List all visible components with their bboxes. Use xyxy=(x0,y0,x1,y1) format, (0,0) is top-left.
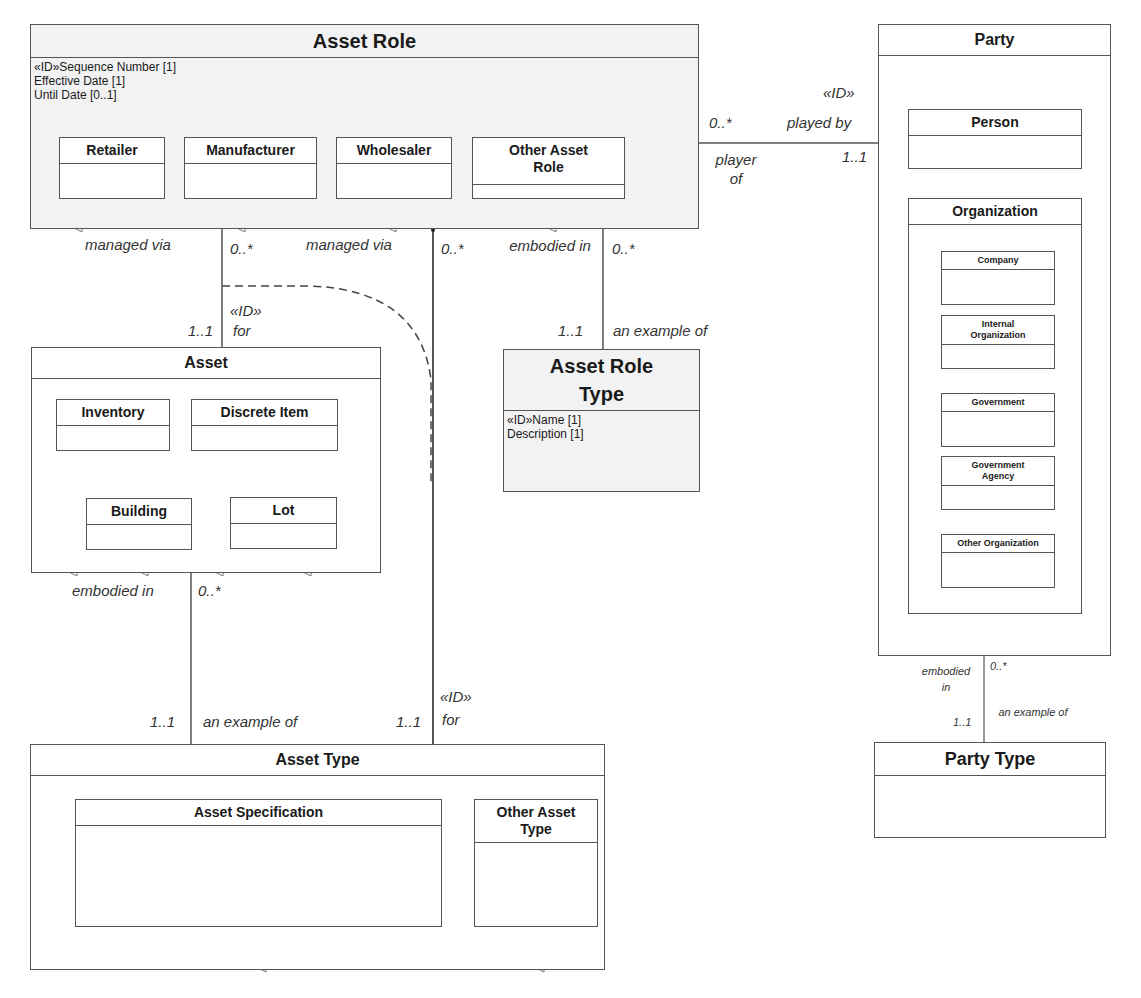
mult-label: 0..* xyxy=(441,240,464,257)
asset-specification-class[interactable]: Asset Specification xyxy=(75,799,442,927)
government-agency-title: Government Agency xyxy=(942,457,1054,486)
role-label: an example of xyxy=(992,705,1074,720)
role-label: embodied in xyxy=(505,236,595,256)
mult-label: 0..* xyxy=(198,582,221,599)
role-label: played by xyxy=(787,114,851,131)
party-title: Party xyxy=(879,25,1110,56)
asset-type-title: Asset Type xyxy=(31,745,604,776)
attribute: Until Date [0..1] xyxy=(34,88,695,102)
attribute: Effective Date [1] xyxy=(34,74,695,88)
lot-title: Lot xyxy=(231,498,336,524)
role-label: managed via xyxy=(306,236,392,253)
other-asset-role-class[interactable]: Other Asset Role xyxy=(472,137,625,199)
inventory-class[interactable]: Inventory xyxy=(56,399,170,451)
mult-label: 1..1 xyxy=(150,713,175,730)
stereotype-label: «ID» xyxy=(440,688,472,705)
retailer-class[interactable]: Retailer xyxy=(59,137,165,199)
mult-label: 1..1 xyxy=(188,322,213,339)
organization-title: Organization xyxy=(909,199,1081,225)
role-label: managed via xyxy=(85,236,171,253)
mult-label: 1..1 xyxy=(396,713,421,730)
person-title: Person xyxy=(909,110,1081,136)
role-label: an example of xyxy=(613,322,707,339)
manufacturer-title: Manufacturer xyxy=(185,138,316,164)
person-class[interactable]: Person xyxy=(908,109,1082,169)
mult-label: 1..1 xyxy=(953,716,971,728)
mult-label: 0..* xyxy=(709,114,732,131)
other-organization-title: Other Organization xyxy=(942,535,1054,553)
discrete-item-class[interactable]: Discrete Item xyxy=(191,399,338,451)
stereotype-label: «ID» xyxy=(230,302,262,319)
wholesaler-title: Wholesaler xyxy=(337,138,451,164)
role-label: an example of xyxy=(203,713,297,730)
party-type-class[interactable]: Party Type xyxy=(874,742,1106,838)
role-label: embodied in xyxy=(920,663,972,695)
mult-label: 0..* xyxy=(612,240,635,257)
mult-label: 1..1 xyxy=(558,322,583,339)
asset-role-attributes: «ID»Sequence Number [1] Effective Date [… xyxy=(31,58,698,104)
government-class[interactable]: Government xyxy=(941,393,1055,447)
building-class[interactable]: Building xyxy=(86,498,192,550)
attribute: «ID»Name [1] xyxy=(507,413,696,427)
party-class[interactable]: Party Person Organization Company Intern… xyxy=(878,24,1111,656)
organization-class[interactable]: Organization Company Internal Organizati… xyxy=(908,198,1082,614)
other-asset-type-class[interactable]: Other Asset Type xyxy=(474,799,598,927)
government-agency-class[interactable]: Government Agency xyxy=(941,456,1055,510)
asset-role-type-attributes: «ID»Name [1] Description [1] xyxy=(504,411,699,443)
party-type-title: Party Type xyxy=(875,743,1105,776)
attribute: «ID»Sequence Number [1] xyxy=(34,60,695,74)
asset-role-class[interactable]: Asset Role «ID»Sequence Number [1] Effec… xyxy=(30,24,699,229)
inventory-title: Inventory xyxy=(57,400,169,426)
lot-class[interactable]: Lot xyxy=(230,497,337,549)
wholesaler-class[interactable]: Wholesaler xyxy=(336,137,452,199)
attribute: Description [1] xyxy=(507,427,696,441)
other-asset-type-title: Other Asset Type xyxy=(475,800,597,843)
building-title: Building xyxy=(87,499,191,525)
role-label: for xyxy=(233,322,251,339)
asset-title: Asset xyxy=(32,348,380,379)
mult-label: 0..* xyxy=(230,240,253,257)
role-label: player of xyxy=(710,150,762,188)
internal-organization-class[interactable]: Internal Organization xyxy=(941,315,1055,369)
other-organization-class[interactable]: Other Organization xyxy=(941,534,1055,588)
asset-role-type-title: Asset Role Type xyxy=(504,350,699,411)
asset-specification-title: Asset Specification xyxy=(76,800,441,826)
asset-type-class[interactable]: Asset Type Asset Specification Other Ass… xyxy=(30,744,605,970)
company-title: Company xyxy=(942,252,1054,270)
stereotype-label: «ID» xyxy=(823,84,855,101)
role-label: for xyxy=(442,711,460,728)
asset-role-type-class[interactable]: Asset Role Type «ID»Name [1] Description… xyxy=(503,349,700,492)
asset-role-title: Asset Role xyxy=(31,25,698,58)
company-class[interactable]: Company xyxy=(941,251,1055,305)
government-title: Government xyxy=(942,394,1054,412)
role-label: embodied in xyxy=(72,582,154,599)
asset-class[interactable]: Asset Inventory Discrete Item Building L… xyxy=(31,347,381,573)
mult-label: 1..1 xyxy=(842,148,867,165)
discrete-item-title: Discrete Item xyxy=(192,400,337,426)
retailer-title: Retailer xyxy=(60,138,164,164)
other-asset-role-title: Other Asset Role xyxy=(494,138,604,180)
mult-label: 0..* xyxy=(990,660,1007,672)
internal-organization-title: Internal Organization xyxy=(942,316,1054,345)
manufacturer-class[interactable]: Manufacturer xyxy=(184,137,317,199)
